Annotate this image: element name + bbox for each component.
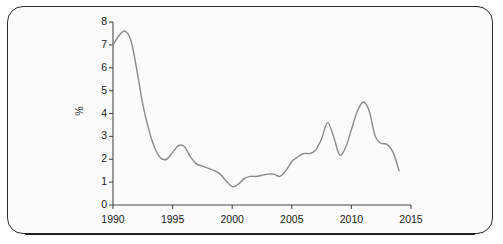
line-chart: 012345678 199019952000200520102015 % xyxy=(0,0,503,244)
x-tick-label: 1995 xyxy=(157,213,189,225)
screenshot-root: 012345678 199019952000200520102015 % xyxy=(0,0,503,244)
y-tick-label: 2 xyxy=(95,152,107,164)
y-tick-label: 7 xyxy=(95,38,107,50)
x-axis-ticks xyxy=(113,205,411,209)
data-series-line xyxy=(113,31,399,187)
y-tick-label: 4 xyxy=(95,107,107,119)
y-tick-label: 1 xyxy=(95,175,107,187)
y-tick-label: 5 xyxy=(95,84,107,96)
y-axis-ticks xyxy=(109,22,113,205)
y-tick-label: 6 xyxy=(95,61,107,73)
x-tick-label: 2015 xyxy=(395,213,427,225)
y-tick-label: 0 xyxy=(95,198,107,210)
y-axis-title: % xyxy=(73,106,85,115)
y-tick-label: 3 xyxy=(95,129,107,141)
x-tick-label: 2005 xyxy=(276,213,308,225)
y-tick-label: 8 xyxy=(95,15,107,27)
chart-plot-svg xyxy=(0,0,503,244)
x-tick-label: 1990 xyxy=(97,213,129,225)
x-tick-label: 2010 xyxy=(335,213,367,225)
x-tick-label: 2000 xyxy=(216,213,248,225)
